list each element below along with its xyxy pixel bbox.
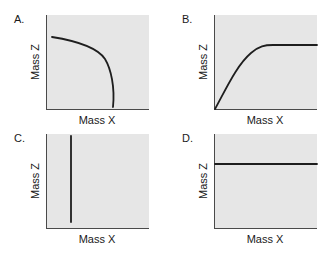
plot-area [46, 134, 149, 229]
curve-decreasing [47, 15, 149, 109]
y-axis-label: Mass Z [29, 163, 41, 199]
x-axis-label: Mass X [79, 233, 116, 245]
panel-letter: A. [14, 13, 24, 25]
plot-area [46, 15, 149, 110]
chart-panel-a: A. Mass Z Mass X [0, 0, 165, 127]
panel-letter: C. [14, 132, 25, 144]
plot-area [214, 134, 317, 229]
y-axis-label: Mass Z [29, 44, 41, 80]
chart-panel-d: D. Mass Z Mass X [168, 119, 330, 246]
chart-panel-c: C. Mass Z Mass X [0, 119, 165, 246]
horizontal-line [215, 134, 317, 228]
panel-letter: B. [182, 13, 192, 25]
curve-rise-plateau [215, 15, 317, 109]
panel-letter: D. [182, 132, 193, 144]
plot-area [214, 15, 317, 110]
y-axis-label: Mass Z [197, 44, 209, 80]
chart-panel-b: B. Mass Z Mass X [168, 0, 330, 127]
vertical-line [47, 134, 149, 228]
x-axis-label: Mass X [247, 233, 284, 245]
y-axis-label: Mass Z [197, 163, 209, 199]
